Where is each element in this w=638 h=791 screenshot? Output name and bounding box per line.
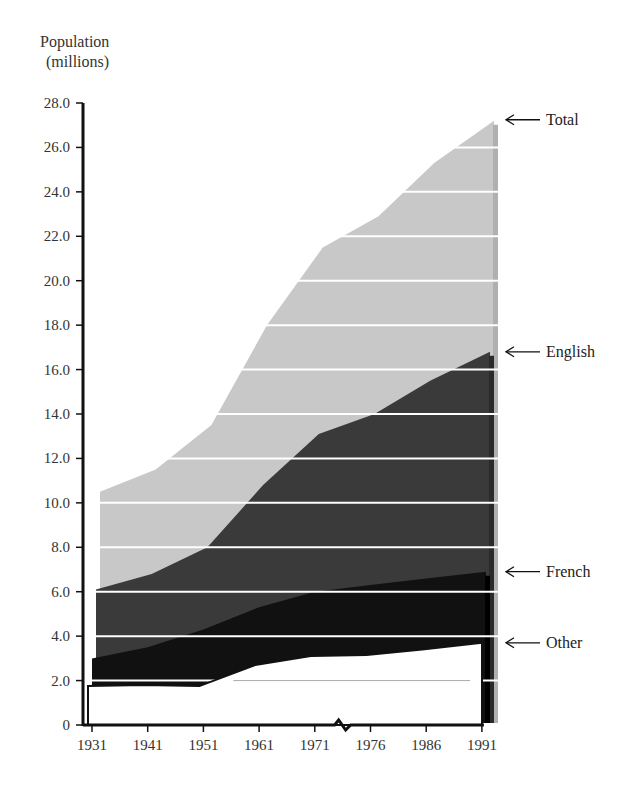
y-tick-label: 26.0 bbox=[44, 139, 70, 155]
x-tick-label: 1971 bbox=[300, 737, 330, 753]
y-tick-label: 24.0 bbox=[44, 184, 70, 200]
y-tick-label: 28.0 bbox=[44, 95, 70, 111]
x-tick-label: 1986 bbox=[411, 737, 442, 753]
x-tick-label: 1976 bbox=[356, 737, 387, 753]
x-tick-label: 1991 bbox=[467, 737, 497, 753]
x-ticks: 19311941195119611971197619861991 bbox=[77, 725, 497, 753]
y-tick-label: 2.0 bbox=[51, 673, 70, 689]
series-label-other: Other bbox=[506, 634, 583, 651]
y-tick-label: 6.0 bbox=[51, 584, 70, 600]
y-axis-title-line-1: Population bbox=[40, 33, 109, 51]
y-tick-label: 18.0 bbox=[44, 317, 70, 333]
series-label-english: English bbox=[506, 343, 595, 361]
x-tick-label: 1961 bbox=[244, 737, 274, 753]
area-edge-french bbox=[485, 576, 490, 723]
series-labels: TotalEnglishFrenchOther bbox=[506, 111, 595, 651]
y-tick-label: 0 bbox=[63, 717, 71, 733]
y-tick-label: 16.0 bbox=[44, 362, 70, 378]
x-tick-label: 1951 bbox=[188, 737, 218, 753]
series-label-text: English bbox=[546, 343, 595, 361]
series-label-text: French bbox=[546, 563, 590, 580]
series-label-french: French bbox=[506, 563, 590, 580]
y-axis-title-line-2: (millions) bbox=[46, 53, 109, 71]
y-ticks: 02.04.06.08.010.012.014.016.018.020.022.… bbox=[44, 95, 83, 733]
y-tick-label: 8.0 bbox=[51, 539, 70, 555]
x-tick-label: 1941 bbox=[133, 737, 163, 753]
y-tick-label: 4.0 bbox=[51, 628, 70, 644]
y-tick-label: 22.0 bbox=[44, 228, 70, 244]
series-label-text: Total bbox=[546, 111, 579, 128]
y-tick-label: 12.0 bbox=[44, 450, 70, 466]
series-label-text: Other bbox=[546, 634, 583, 651]
x-tick-label: 1931 bbox=[77, 737, 107, 753]
series-label-total: Total bbox=[506, 111, 579, 128]
y-tick-label: 10.0 bbox=[44, 495, 70, 511]
y-tick-label: 14.0 bbox=[44, 406, 70, 422]
area-layers bbox=[92, 121, 498, 723]
y-axis-title: Population (millions) bbox=[40, 33, 109, 71]
y-tick-label: 20.0 bbox=[44, 273, 70, 289]
population-chart: Population (millions) 02.04.06.08.010.01… bbox=[0, 0, 638, 791]
